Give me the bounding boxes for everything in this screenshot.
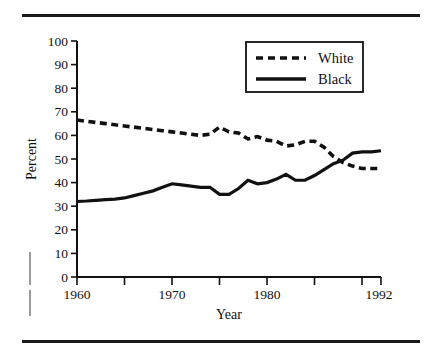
y-tick-label-0: 0 (61, 270, 68, 285)
y-tick-label-50: 50 (55, 152, 69, 167)
figure-container: 0 10 20 30 40 50 60 70 80 90 100 (0, 0, 439, 354)
y-tick-label-40: 40 (55, 175, 69, 190)
x-axis-ticks (77, 277, 381, 285)
x-tick-label-1970: 1970 (159, 287, 186, 302)
x-tick-label-1980: 1980 (254, 287, 281, 302)
y-tick-label-90: 90 (55, 57, 69, 72)
series-group (77, 120, 381, 201)
x-axis-title: Year (216, 307, 242, 322)
y-tick-label-80: 80 (55, 81, 69, 96)
x-tick-label-1992: 1992 (366, 287, 393, 302)
line-chart: 0 10 20 30 40 50 60 70 80 90 100 (0, 0, 439, 354)
y-axis-tick-labels: 0 10 20 30 40 50 60 70 80 90 100 (48, 34, 69, 285)
x-axis-tick-labels: 1960 1970 1980 1992 (64, 287, 393, 302)
y-tick-label-70: 70 (55, 104, 69, 119)
series-line-white (77, 120, 381, 168)
y-tick-label-20: 20 (55, 222, 69, 237)
chart-legend[interactable]: White Black (246, 42, 363, 92)
y-tick-label-60: 60 (55, 128, 69, 143)
legend-label-white: White (318, 50, 353, 66)
y-axis-title: Percent (24, 138, 39, 180)
x-tick-label-1960: 1960 (64, 287, 91, 302)
y-tick-label-10: 10 (55, 246, 69, 261)
chart-canvas: 0 10 20 30 40 50 60 70 80 90 100 (0, 0, 439, 354)
series-line-black (77, 151, 381, 202)
y-tick-label-30: 30 (55, 199, 69, 214)
legend-label-black: Black (318, 71, 353, 87)
y-tick-label-100: 100 (48, 34, 69, 49)
